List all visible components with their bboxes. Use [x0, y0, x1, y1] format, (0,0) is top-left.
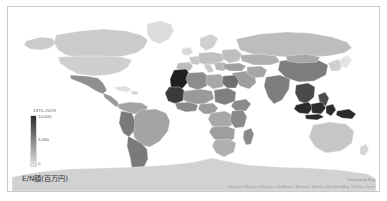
legend-tick-high: 10,000 [38, 115, 51, 119]
legend-tick-mid: 5,000 [38, 138, 49, 142]
map-attribution-text: © Australian Bureau of Statistics, GeoNa… [226, 185, 375, 189]
map-legend: 1970-2019 10,000 5,000 0 E/N額(百万円) [22, 108, 108, 169]
powered-by-bing-label: Powered by Bing [348, 178, 375, 182]
map-visual-frame: 1970-2019 10,000 5,000 0 E/N額(百万円) Power… [7, 6, 380, 192]
legend-tick-low: 0 [38, 162, 40, 166]
legend-title: 1970-2019 [33, 108, 108, 113]
legend-body: 10,000 5,000 0 E/N額(百万円) [22, 115, 108, 169]
legend-gradient-bar[interactable] [30, 115, 37, 167]
legend-axis-label: E/N額(百万円) [22, 173, 68, 183]
